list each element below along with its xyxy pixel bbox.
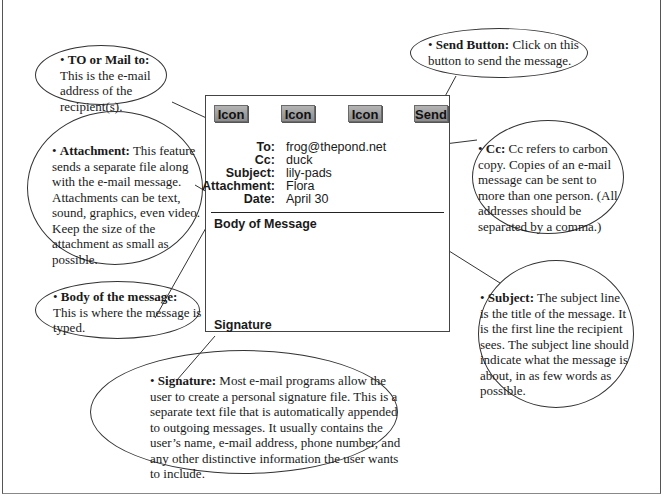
bullet: • [53,289,58,304]
date-value: April 30 [286,193,328,206]
field-date: Date: April 30 [206,193,446,206]
callout-signature-title: Signature: [158,373,216,388]
icon-button-1[interactable]: Icon [214,105,248,122]
bullet: • [52,143,57,158]
callout-body-text: This is where the message is typed. [53,305,201,336]
callout-signature: • Signature: Most e-mail programs allow … [150,373,410,482]
callout-cc: • Cc: Cc refers to carbon copy. Copies o… [478,141,620,234]
callout-subject: • Subject: The subject line is the title… [480,290,630,399]
signature-label[interactable]: Signature [214,318,272,332]
header-divider [211,212,444,213]
bullet: • [60,52,65,67]
callout-subject-text: The subject line is the title of the mes… [480,290,629,398]
callout-cc-title: Cc: [486,141,506,156]
callout-to-text: This is the e-mail address of the recipi… [60,68,151,114]
icon-button-2[interactable]: Icon [281,105,315,122]
callout-attachment-title: Attachment: [60,143,130,158]
email-window: Icon Icon Icon Send To: frog@thepond.net… [205,95,450,332]
body-of-message[interactable]: Body of Message [214,217,317,231]
date-label: Date: [244,193,275,206]
bullet: • [480,290,485,305]
callout-to: • TO or Mail to: This is the e-mail addr… [60,52,168,114]
field-to: To: frog@thepond.net [206,141,446,154]
bullet: • [478,141,483,156]
callout-subject-title: Subject: [488,290,534,305]
callout-body-title: Body of the message: [61,289,178,304]
callout-send-title: Send Button: [436,37,509,52]
send-button[interactable]: Send [414,105,448,122]
bullet: • [150,373,155,388]
callout-signature-text: Most e-mail programs allow the user to c… [150,373,400,481]
callout-attachment-text: This feature sends a separate file along… [52,143,200,267]
callout-send: • Send Button: Click on this button to s… [428,37,588,68]
callout-to-title: TO or Mail to: [68,52,150,67]
callout-body: • Body of the message: This is where the… [53,289,203,336]
callout-attachment: • Attachment: This feature sends a separ… [52,143,202,267]
bullet: • [428,37,433,52]
icon-button-3[interactable]: Icon [348,105,382,122]
